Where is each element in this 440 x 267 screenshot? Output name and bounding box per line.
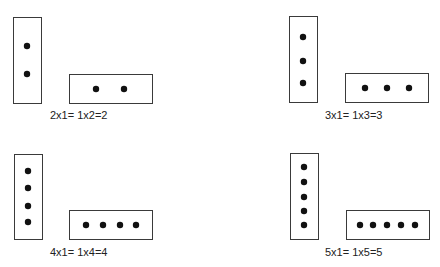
dot [300, 58, 306, 64]
dot [370, 222, 376, 228]
dot [24, 43, 30, 49]
dot [133, 222, 139, 228]
dot [301, 222, 307, 228]
dot [301, 194, 307, 200]
dot [301, 208, 307, 214]
horizontal-bar-2 [70, 75, 153, 104]
panel-4: 4x1= 1x4=4 [15, 155, 153, 259]
dot [25, 219, 31, 225]
dot [406, 85, 412, 91]
equation-label: 2x1= 1x2=2 [50, 109, 108, 121]
multiplication-diagram: 2x1= 1x2=23x1= 1x3=34x1= 1x4=45x1= 1x5=5 [0, 0, 440, 267]
dot [117, 222, 123, 228]
dot [384, 85, 390, 91]
dot [398, 222, 404, 228]
dot [301, 179, 307, 185]
dot [93, 86, 99, 92]
vertical-bar-2 [14, 18, 42, 104]
dot [300, 80, 306, 86]
dot [25, 168, 31, 174]
dot [100, 222, 106, 228]
dot [24, 71, 30, 77]
dot [25, 185, 31, 191]
dot [412, 222, 418, 228]
equation-label: 3x1= 1x3=3 [325, 109, 383, 121]
equation-label: 5x1= 1x5=5 [325, 246, 383, 258]
dot [25, 203, 31, 209]
horizontal-bar-4 [70, 211, 153, 240]
dot [300, 34, 306, 40]
dot [121, 86, 127, 92]
equation-label: 4x1= 1x4=4 [50, 246, 108, 258]
dot [301, 164, 307, 170]
panel-5: 5x1= 1x5=5 [291, 154, 430, 259]
dot [384, 222, 390, 228]
dot [357, 222, 363, 228]
vertical-bar-4 [15, 155, 43, 240]
dot [362, 85, 368, 91]
dot [83, 222, 89, 228]
panel-2: 2x1= 1x2=2 [14, 18, 153, 122]
panel-3: 3x1= 1x3=3 [290, 17, 429, 122]
